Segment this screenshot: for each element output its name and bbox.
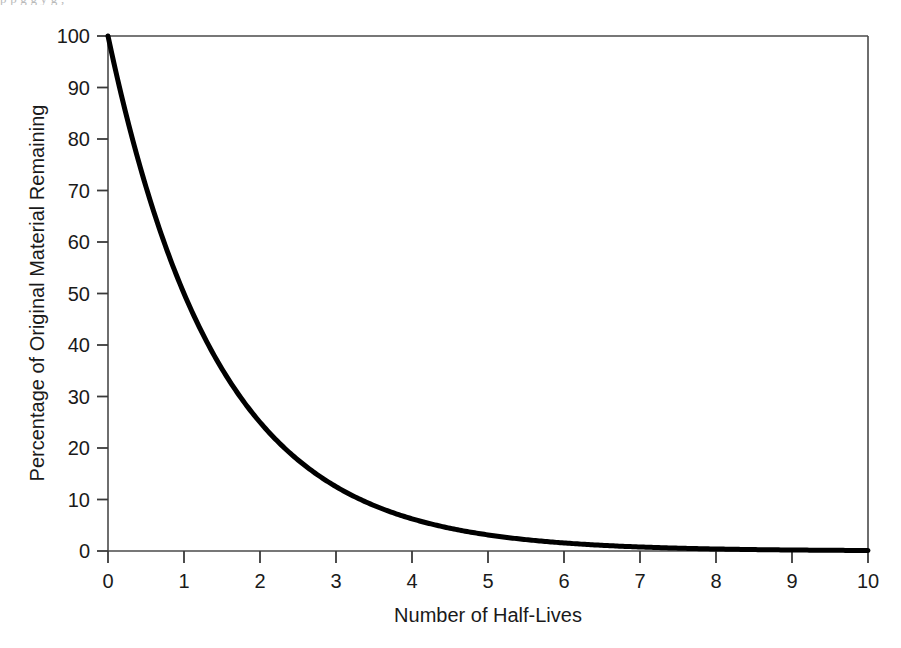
x-tick-label: 4 [406, 570, 417, 592]
x-tick-label: 2 [254, 570, 265, 592]
x-tick-label: 8 [710, 570, 721, 592]
y-axis-tick-labels: 100 90 80 70 60 50 40 30 20 10 0 [57, 25, 90, 562]
x-axis-title: Number of Half-Lives [394, 604, 582, 626]
y-tick-label: 10 [68, 489, 90, 511]
y-tick-label: 80 [68, 128, 90, 150]
y-tick-label: 0 [79, 540, 90, 562]
x-tick-label: 3 [330, 570, 341, 592]
x-tick-label: 10 [857, 570, 879, 592]
y-tick-label: 70 [68, 180, 90, 202]
y-tick-label: 30 [68, 386, 90, 408]
x-tick-label: 6 [558, 570, 569, 592]
x-tick-label: 5 [482, 570, 493, 592]
x-tick-label: 9 [786, 570, 797, 592]
y-axis-ticks [97, 36, 108, 551]
x-tick-label: 0 [102, 570, 113, 592]
plot-frame [108, 36, 868, 551]
x-axis-tick-labels: 0 1 2 3 4 5 6 7 8 9 10 [102, 570, 879, 592]
decay-curve [108, 36, 868, 551]
y-tick-label: 60 [68, 231, 90, 253]
x-axis-ticks [108, 551, 868, 563]
y-tick-label: 50 [68, 283, 90, 305]
decay-chart-figure: p p g g y g , [0, 0, 901, 648]
y-tick-label: 20 [68, 437, 90, 459]
half-life-decay-chart: 100 90 80 70 60 50 40 30 20 10 0 [0, 0, 901, 648]
y-tick-label: 100 [57, 25, 90, 47]
y-tick-label: 40 [68, 334, 90, 356]
x-tick-label: 1 [178, 570, 189, 592]
y-tick-label: 90 [68, 77, 90, 99]
x-tick-label: 7 [634, 570, 645, 592]
y-axis-title: Percentage of Original Material Remainin… [26, 105, 48, 482]
